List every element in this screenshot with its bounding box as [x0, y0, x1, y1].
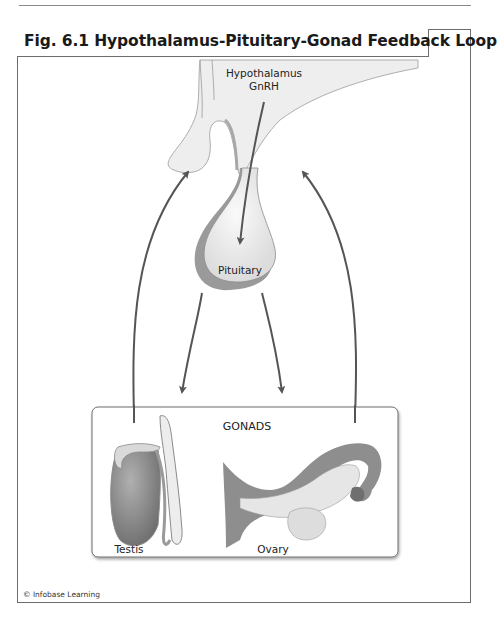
- gonads-label: GONADS: [210, 420, 284, 433]
- copyright-credit: © Infobase Learning: [23, 590, 100, 599]
- pituitary-label: Pituitary: [210, 264, 270, 276]
- hypothalamus-label: Hypothalamus: [224, 67, 304, 79]
- ovary-label: Ovary: [251, 543, 295, 555]
- testis-label: Testis: [109, 543, 149, 555]
- figure-frame: [17, 29, 471, 603]
- figure-title: Fig. 6.1 Hypothalamus-Pituitary-Gonad Fe…: [24, 32, 497, 50]
- gnrh-label: GnRH: [236, 80, 292, 92]
- figure-title-box: Fig. 6.1 Hypothalamus-Pituitary-Gonad Fe…: [17, 29, 429, 57]
